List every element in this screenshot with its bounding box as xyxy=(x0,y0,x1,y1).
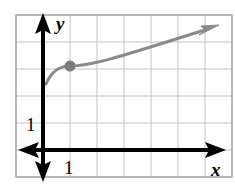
graph-figure: y x 1 1 xyxy=(0,0,235,185)
y-axis-label: y xyxy=(54,13,65,34)
y-axis-tick-label: 1 xyxy=(26,114,36,135)
curve-point-marker xyxy=(65,61,76,72)
coordinate-plane: y x 1 1 xyxy=(0,0,235,185)
x-axis-label: x xyxy=(210,159,221,180)
x-axis-tick-label: 1 xyxy=(64,157,74,178)
